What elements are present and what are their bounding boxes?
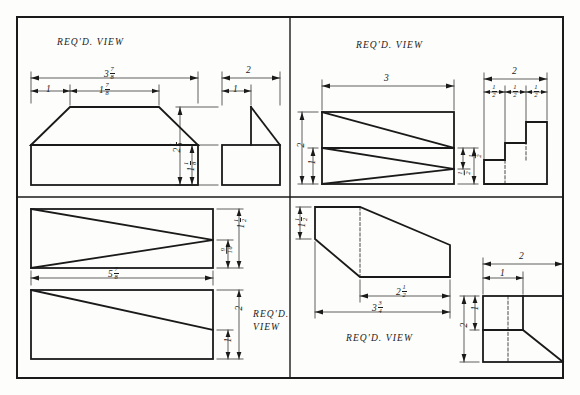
panel-bl-lower-object (31, 290, 213, 359)
panel-br-dim-side-inner-height: 1 (471, 294, 481, 322)
quadrant-dividers (17, 17, 563, 378)
panel-tl-dim-top-face-width: 178 (99, 82, 110, 96)
panel-tl-dim-side-offset: 1 (233, 85, 238, 95)
panel-tr-dim-step-3-width: 12 (533, 84, 539, 98)
drawing-linework (0, 0, 580, 395)
panel-tl-side-object (222, 107, 280, 185)
panel-br-dim-overall-length: 334 (372, 300, 383, 314)
panel-tr-dim-step-2-width: 12 (512, 84, 518, 98)
panel-tl-dim-overall-height: 218 (169, 133, 183, 161)
panel-tl-dim-overall-width: 378 (104, 66, 115, 80)
panel-br-side-object (483, 296, 563, 362)
panel-tl-dim-side-width: 2 (246, 66, 251, 76)
panel-br-dim-side-inner-width: 1 (500, 269, 505, 279)
panel-tl-dim-left-offset: 1 (46, 85, 51, 95)
panel-bl-length-dim (31, 271, 213, 285)
panel-tl-dim-base-height: 118 (183, 152, 197, 180)
panel-tr-dim-overall-length: 3 (384, 74, 389, 84)
panel-tr-dim-step-total-width: 2 (512, 67, 517, 77)
panel-tr-step-object (484, 122, 547, 184)
panel-br-dim-side-overall-height: 2 (460, 311, 470, 339)
panel-bl-view-label-line1: REQ'D. (253, 309, 289, 319)
panel-tr-dim-mid-height: 1 (308, 148, 318, 176)
panel-bl-upper-object (31, 209, 213, 268)
panel-tr-view-label: REQ'D. VIEW (356, 40, 423, 50)
panel-br-view-label: REQ'D. VIEW (346, 333, 413, 343)
drawing-sheet: REQ'D. VIEW 378 1 178 2 1 218 118 REQ'D.… (0, 0, 580, 395)
panel-tr-step-hidden (505, 143, 526, 184)
panel-bl-dim-upper-bottom-height: 916 (220, 238, 234, 262)
panel-bl-dim-lower-inner-height: 1 (224, 326, 234, 354)
panel-tr-dim-overall-height: 2 (297, 131, 307, 159)
panel-bl-view-label: REQ'D. VIEW (253, 308, 289, 334)
panel-tl-view-label: REQ'D. VIEW (57, 37, 124, 47)
panel-bl-dim-upper-top-height: 112 (233, 209, 247, 237)
panel-bl-view-label-line2: VIEW (253, 322, 280, 332)
panel-br-dim-side-width: 2 (519, 252, 524, 262)
panel-br-front-arrows (298, 207, 450, 314)
panel-br-front-object (315, 207, 450, 277)
panel-bl-dim-lower-overall-height: 2 (235, 294, 245, 322)
panel-tr-dim-right-lower-height: 12 (457, 163, 471, 183)
panel-bl-dim-overall-length: 578 (108, 266, 119, 280)
panel-tr-front-object (322, 112, 454, 184)
panel-tr-dim-step-1-width: 12 (491, 84, 497, 98)
panel-br-dim-upper-length: 212 (396, 284, 407, 298)
panel-br-dim-front-height: 112 (294, 208, 308, 236)
